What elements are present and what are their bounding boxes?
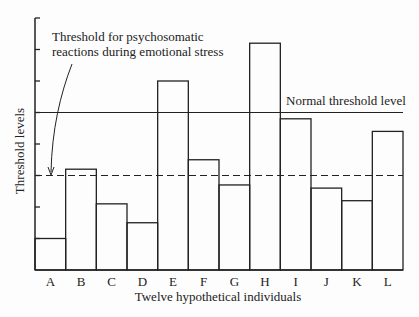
x-tick-labels: ABCDEFGHIJKL	[46, 274, 392, 289]
bar-f	[188, 160, 219, 270]
annotation-arrow	[51, 64, 72, 172]
bar-g	[219, 185, 250, 270]
stress-annotation-line2: reactions during emotional stress	[52, 44, 224, 59]
x-tick-j: J	[324, 274, 329, 289]
x-tick-a: A	[46, 274, 56, 289]
x-tick-i: I	[293, 274, 297, 289]
bar-b	[66, 169, 97, 270]
x-tick-d: D	[138, 274, 147, 289]
x-tick-g: G	[230, 274, 239, 289]
y-axis-label: Threshold levels	[12, 108, 27, 194]
bar-h	[250, 43, 281, 270]
x-tick-l: L	[384, 274, 392, 289]
bar-a	[35, 239, 66, 271]
bar-k	[342, 201, 373, 270]
x-axis-label: Twelve hypothetical individuals	[135, 289, 302, 304]
x-tick-b: B	[77, 274, 86, 289]
bars	[35, 43, 403, 270]
bar-j	[311, 188, 342, 270]
x-tick-h: H	[260, 274, 269, 289]
bar-c	[96, 204, 127, 270]
threshold-bar-chart: ABCDEFGHIJKL Threshold for psychosomatic…	[0, 0, 419, 317]
bar-l	[372, 131, 403, 270]
stress-annotation-line1: Threshold for psychosomatic	[52, 29, 204, 44]
normal-threshold-label: Normal threshold level	[286, 93, 406, 108]
bar-d	[127, 223, 158, 270]
x-tick-f: F	[200, 274, 207, 289]
x-tick-k: K	[352, 274, 362, 289]
x-tick-c: C	[107, 274, 116, 289]
bar-i	[280, 119, 311, 270]
x-tick-e: E	[169, 274, 177, 289]
